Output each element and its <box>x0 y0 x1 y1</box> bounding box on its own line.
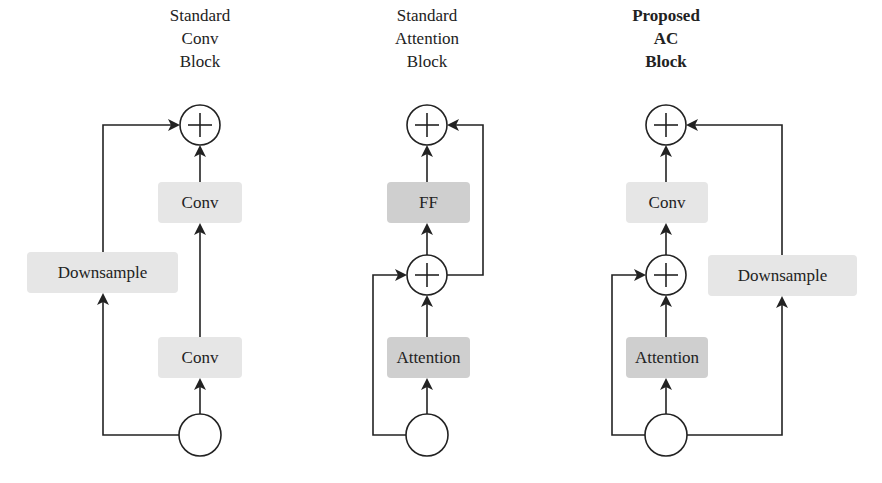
block3-add-node-top <box>646 105 686 145</box>
block1-add-node <box>180 105 220 145</box>
diagram-canvas <box>0 0 882 483</box>
block2-add-node-top <box>407 105 447 145</box>
block2-add-node-mid <box>407 255 447 295</box>
block3-input-node <box>645 414 687 456</box>
block1-input-node <box>179 414 221 456</box>
block1-edges <box>103 125 200 435</box>
block3-add-node-mid <box>646 255 686 295</box>
block3-edges <box>612 125 782 435</box>
block2-input-node <box>406 414 448 456</box>
